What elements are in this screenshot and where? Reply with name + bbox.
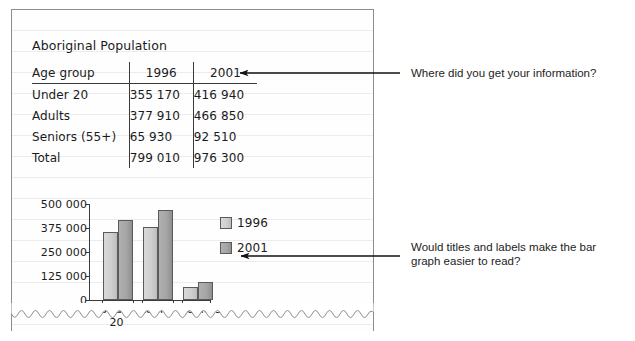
cell-age-group: Total [32, 147, 129, 168]
y-axis-tick [85, 252, 89, 253]
annotation-labels-question: Would titles and labels make the bar gra… [411, 240, 616, 268]
y-axis-tick [85, 276, 89, 277]
y-axis [89, 204, 90, 300]
legend-item-2001: 2001 [220, 241, 268, 255]
bar-1996-adults [143, 227, 158, 300]
y-axis-tick [85, 228, 89, 229]
col-header-2001: 2001 [193, 62, 257, 84]
cell-2001: 976 300 [193, 147, 257, 168]
y-axis-labels: 500 000 375 000 250 000 125 000 0 [30, 202, 87, 302]
cell-1996: 377 910 [129, 105, 193, 126]
y-tick-label: 250 000 [41, 246, 87, 259]
cell-age-group: Seniors (55+) [32, 126, 129, 147]
bar-2001-seniors [198, 282, 213, 300]
cell-1996: 799 010 [129, 147, 193, 168]
plot-area: Under 20 Adults Seniors [89, 204, 211, 300]
bar-2001-under-20 [118, 220, 133, 300]
table-row: Total 799 010 976 300 [32, 147, 257, 168]
table-row: Under 20 355 170 416 940 [32, 84, 257, 106]
paper-sheet: Aboriginal Population Age group 1996 200… [11, 9, 374, 331]
cell-2001: 92 510 [193, 126, 257, 147]
annotation-line: graph easier to read? [411, 254, 616, 268]
annotation-line: Where did you get your information? [411, 66, 626, 80]
bar-1996-seniors [183, 287, 198, 300]
y-tick-label: 500 000 [41, 198, 87, 211]
legend-label: 1996 [237, 216, 268, 230]
table-header-row: Age group 1996 2001 [32, 62, 257, 84]
annotation-source-question: Where did you get your information? [411, 66, 626, 80]
cell-2001: 416 940 [193, 84, 257, 106]
col-header-1996: 1996 [129, 62, 193, 84]
cell-2001: 466 850 [193, 105, 257, 126]
legend-swatch-icon [220, 217, 232, 229]
page-title: Aboriginal Population [32, 38, 167, 53]
legend-swatch-icon [220, 242, 232, 254]
legend-item-1996: 1996 [220, 216, 268, 230]
annotation-line: Would titles and labels make the bar [411, 240, 616, 254]
y-tick-label: 125 000 [41, 270, 87, 283]
x-axis [89, 300, 211, 301]
table-row: Adults 377 910 466 850 [32, 105, 257, 126]
table-row: Seniors (55+) 65 930 92 510 [32, 126, 257, 147]
torn-paper-edge [11, 303, 374, 333]
cell-1996: 65 930 [129, 126, 193, 147]
y-tick-label: 375 000 [41, 222, 87, 235]
cell-age-group: Adults [32, 105, 129, 126]
y-axis-tick [85, 204, 89, 205]
chart-legend: 1996 2001 [220, 216, 268, 266]
col-header-age-group: Age group [32, 62, 129, 84]
bar-1996-under-20 [103, 232, 118, 300]
bar-2001-adults [158, 210, 173, 300]
population-table: Age group 1996 2001 Under 20 355 170 416… [32, 62, 257, 168]
cell-age-group: Under 20 [32, 84, 129, 106]
worksheet-screenshot: Aboriginal Population Age group 1996 200… [0, 0, 635, 341]
y-axis-tick [85, 300, 89, 301]
cell-1996: 355 170 [129, 84, 193, 106]
legend-label: 2001 [237, 241, 268, 255]
